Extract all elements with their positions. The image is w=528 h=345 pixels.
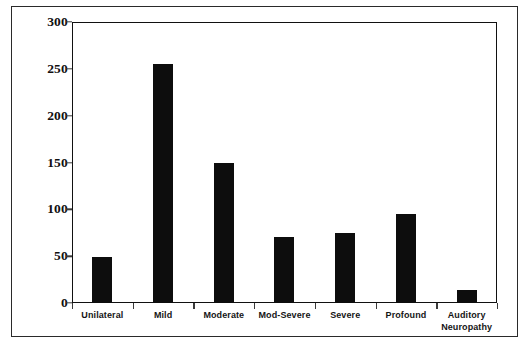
- x-axis-tick-mark: [376, 303, 377, 309]
- x-axis-tick-label: Unilateral: [72, 310, 133, 344]
- x-axis-tick-mark: [254, 303, 255, 309]
- x-axis-labels: UnilateralMildModerateMod-SevereSeverePr…: [72, 310, 497, 344]
- bar-slot: [72, 22, 133, 303]
- x-axis-tick-label: Auditory Neuropathy: [436, 310, 497, 344]
- bar: [214, 163, 234, 303]
- bar-slot: [254, 22, 315, 303]
- bar-slot: [376, 22, 437, 303]
- x-axis-tick-label: Moderate: [193, 310, 254, 344]
- bar-chart: 050100150200250300 UnilateralMildModerat…: [0, 0, 528, 345]
- x-axis-tick-label: Mod-Severe: [254, 310, 315, 344]
- x-axis-tick-mark: [72, 303, 73, 309]
- bar-series: [72, 22, 497, 303]
- bar: [274, 237, 294, 304]
- x-axis-tick-label: Mild: [133, 310, 194, 344]
- x-axis-tick-mark: [133, 303, 134, 309]
- x-axis-tick-mark: [497, 303, 498, 309]
- bar-slot: [193, 22, 254, 303]
- bar: [396, 214, 416, 303]
- bar: [457, 290, 477, 303]
- x-axis-tick-mark: [315, 303, 316, 309]
- bar-slot: [133, 22, 194, 303]
- bar-slot: [436, 22, 497, 303]
- x-axis-tick-label: Profound: [376, 310, 437, 344]
- x-axis-tick-mark: [193, 303, 194, 309]
- bar: [335, 233, 355, 303]
- bar: [92, 257, 112, 303]
- bar: [153, 64, 173, 303]
- x-axis-tick-label: Severe: [315, 310, 376, 344]
- bar-slot: [315, 22, 376, 303]
- x-axis-tick-mark: [436, 303, 437, 309]
